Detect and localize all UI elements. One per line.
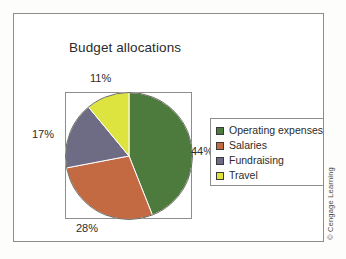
chart-legend: Operating expensesSalariesFundraisingTra… xyxy=(210,118,324,186)
legend-color-swatch xyxy=(216,172,224,180)
legend-item[interactable]: Operating expenses xyxy=(216,123,319,138)
pie-chart xyxy=(58,85,200,227)
legend-item-label: Salaries xyxy=(229,140,267,151)
pie-label-fundraising: 17% xyxy=(32,128,54,140)
copyright-credit: © Cengage Learning xyxy=(326,150,335,240)
legend-item-label: Fundraising xyxy=(229,155,284,166)
legend-color-swatch xyxy=(216,142,224,150)
legend-item[interactable]: Fundraising xyxy=(216,153,319,168)
legend-color-swatch xyxy=(216,127,224,135)
chart-title: Budget allocations xyxy=(69,40,181,55)
legend-item[interactable]: Salaries xyxy=(216,138,319,153)
pie-label-salaries: 28% xyxy=(76,222,98,234)
legend-item[interactable]: Travel xyxy=(216,168,319,183)
legend-color-swatch xyxy=(216,157,224,165)
legend-item-label: Operating expenses xyxy=(229,125,323,136)
pie-label-travel: 11% xyxy=(90,72,111,84)
pie-slices xyxy=(65,93,192,220)
figure-frame: Budget allocations 11% 17% 44% 28% Opera… xyxy=(13,13,324,242)
legend-item-label: Travel xyxy=(229,170,258,181)
